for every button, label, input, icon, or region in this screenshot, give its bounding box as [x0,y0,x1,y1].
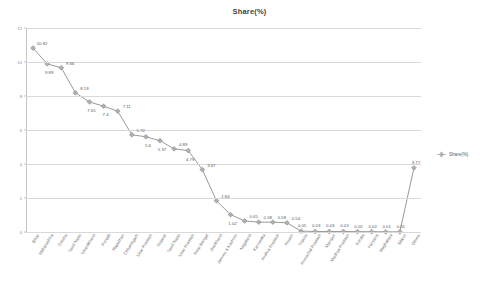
data-point-marker [158,138,163,143]
y-tick-mark [24,164,26,165]
x-axis-category-label: Uttarakhand [80,233,96,255]
x-axis-category-text: Kerala [354,233,365,246]
x-axis-category-label: Karnataka [252,233,266,252]
data-point-marker [115,109,120,114]
data-point-marker [129,132,134,137]
x-axis-category-label: Gujarat [156,233,168,247]
y-tick-label: 8 [20,94,22,99]
legend-entry-label: Share(%) [449,152,468,157]
y-tick-mark [24,130,26,131]
x-axis-category-label: Jharkhand [209,233,224,252]
x-axis-category-text: Punjab [100,233,111,247]
x-axis-category-label: Kerala [354,233,365,246]
x-axis-category-text: Nagaland [238,233,252,251]
x-axis-category-label: Bihar [31,233,40,244]
x-axis-category-text: Meghalaya [378,233,393,253]
data-point-marker [101,104,106,109]
y-tick-label: 0 [20,230,22,235]
x-axis-category-label: Sikkim [396,233,407,246]
x-axis-category-text: Haryana [366,233,379,249]
y-tick-label: 2 [20,196,22,201]
data-point-marker [256,220,261,225]
y-tick-mark [24,96,26,97]
y-tick-label: 12 [17,26,22,31]
x-axis-category-text: Odisha [57,233,68,247]
x-axis-category-label: Assam [283,233,294,247]
x-axis-category-label: West Bengal [193,233,210,256]
y-tick-mark [24,198,26,199]
chart-container: Share(%) 02468101210.829.899.668.197.657… [0,0,499,281]
data-point-marker [412,166,417,171]
y-tick-label: 4 [20,162,22,167]
x-axis-category-text: Others [410,233,421,246]
x-axis-category-label: Rajasthan [111,233,125,252]
x-axis-category-label: Haryana [366,233,379,249]
data-point-marker [285,220,290,225]
gridline [26,198,421,199]
plot-area: 02468101210.829.899.668.197.657.47.115.7… [26,28,421,232]
x-axis-category-text: Gujarat [156,233,168,247]
gridline [26,28,421,29]
legend-marker-diamond-icon [437,150,446,159]
x-axis-category-text: Rajasthan [111,233,125,252]
gridline [26,130,421,131]
x-axis-category-label: Nagaland [238,233,252,251]
x-axis-category-text: Jharkhand [209,233,224,252]
x-axis-category-label: Odisha [57,233,68,247]
x-axis-category-text: Tripura [297,233,308,247]
x-axis-category-text: Uttarakhand [80,233,96,255]
x-axis-category-label: Manipur [324,233,336,248]
gridline [26,62,421,63]
x-axis-category-text: Manipur [324,233,336,248]
x-axis-category-label: Tripura [297,233,308,247]
y-tick-mark [24,62,26,63]
x-axis-category-label: Maharashtra [38,233,55,256]
x-axis-category-label: Others [410,233,421,246]
data-point-marker [242,219,247,224]
x-axis-category-text: Bihar [31,233,40,244]
gridline [26,96,421,97]
y-tick-label: 10 [17,60,22,65]
data-point-marker [270,220,275,225]
x-axis-category-text: Karnataka [252,233,266,252]
data-point-marker [172,146,177,151]
x-axis-category-text: Assam [283,233,294,247]
data-point-marker [59,65,64,70]
x-axis-category-label: Punjab [100,233,111,247]
gridline [26,164,421,165]
y-tick-mark [24,28,26,29]
x-axis-category-text: Maharashtra [38,233,55,256]
chart-legend: Share(%) [437,150,468,159]
x-axis-category-text: Sikkim [396,233,407,246]
x-axis-category-label: Meghalaya [378,233,393,253]
x-axis-labels: BiharMaharashtraOdishaTamil NaduUttarakh… [26,233,421,279]
chart-title: Share(%) [0,7,499,16]
x-axis-category-text: West Bengal [193,233,210,256]
y-tick-label: 6 [20,128,22,133]
data-point-marker [144,134,149,139]
